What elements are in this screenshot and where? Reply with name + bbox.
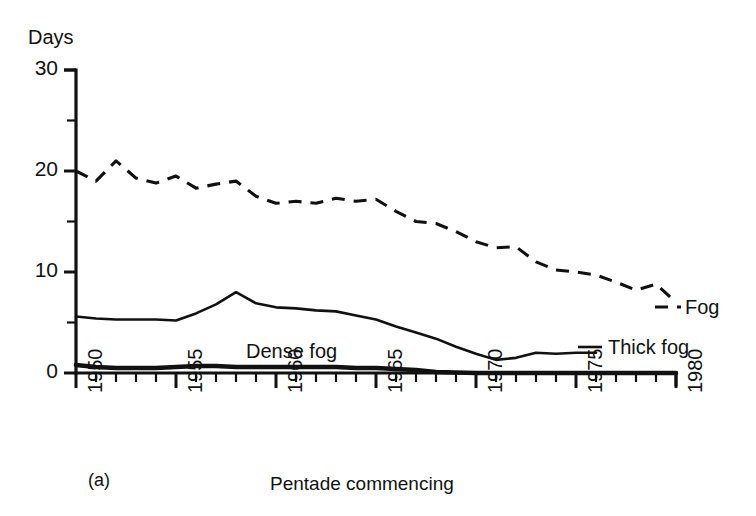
x-tick-label: 1960 — [284, 349, 307, 394]
series-label-fog: Fog — [685, 296, 719, 319]
x-tick-label: 1955 — [184, 349, 207, 394]
series-line-fog — [76, 161, 676, 302]
y-axis-ticks — [64, 70, 76, 373]
chart-axes — [64, 70, 676, 386]
chart-series-lines — [76, 161, 676, 373]
x-tick-label: 1965 — [384, 349, 407, 394]
y-tick-label: 0 — [10, 359, 58, 383]
y-tick-label: 20 — [10, 157, 58, 181]
x-tick-label: 1975 — [584, 349, 607, 394]
chart-plot-area — [0, 0, 756, 516]
y-tick-label: 10 — [10, 258, 58, 282]
x-axis-title: Pentade commencing — [270, 473, 454, 495]
fog-days-chart-figure: Days Fog Thick fog Dense fog 0102030 195… — [0, 0, 756, 516]
panel-label: (a) — [88, 470, 110, 491]
x-tick-label: 1970 — [484, 349, 507, 394]
series-label-thick-fog: Thick fog — [608, 336, 689, 359]
y-tick-label: 30 — [10, 56, 58, 80]
x-tick-label: 1980 — [684, 349, 707, 394]
x-tick-label: 1950 — [84, 349, 107, 394]
